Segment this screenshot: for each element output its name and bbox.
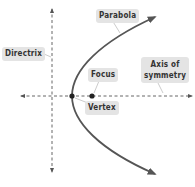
axis-label-line1: Axis of — [144, 59, 186, 70]
axis-of-symmetry-label: Axis of symmetry — [141, 57, 189, 83]
directrix-leader — [44, 54, 51, 57]
focus-leader — [94, 81, 99, 93]
parabola-label: Parabola — [96, 9, 139, 23]
focus-label: Focus — [88, 68, 118, 82]
axis-leader — [158, 83, 163, 93]
vertex-label: Vertex — [85, 101, 119, 115]
parabola-diagram — [0, 0, 195, 187]
vertex-point — [69, 93, 74, 98]
focus-point — [89, 93, 94, 98]
directrix-label: Directrix — [2, 47, 45, 61]
axis-label-line2: symmetry — [144, 70, 186, 81]
